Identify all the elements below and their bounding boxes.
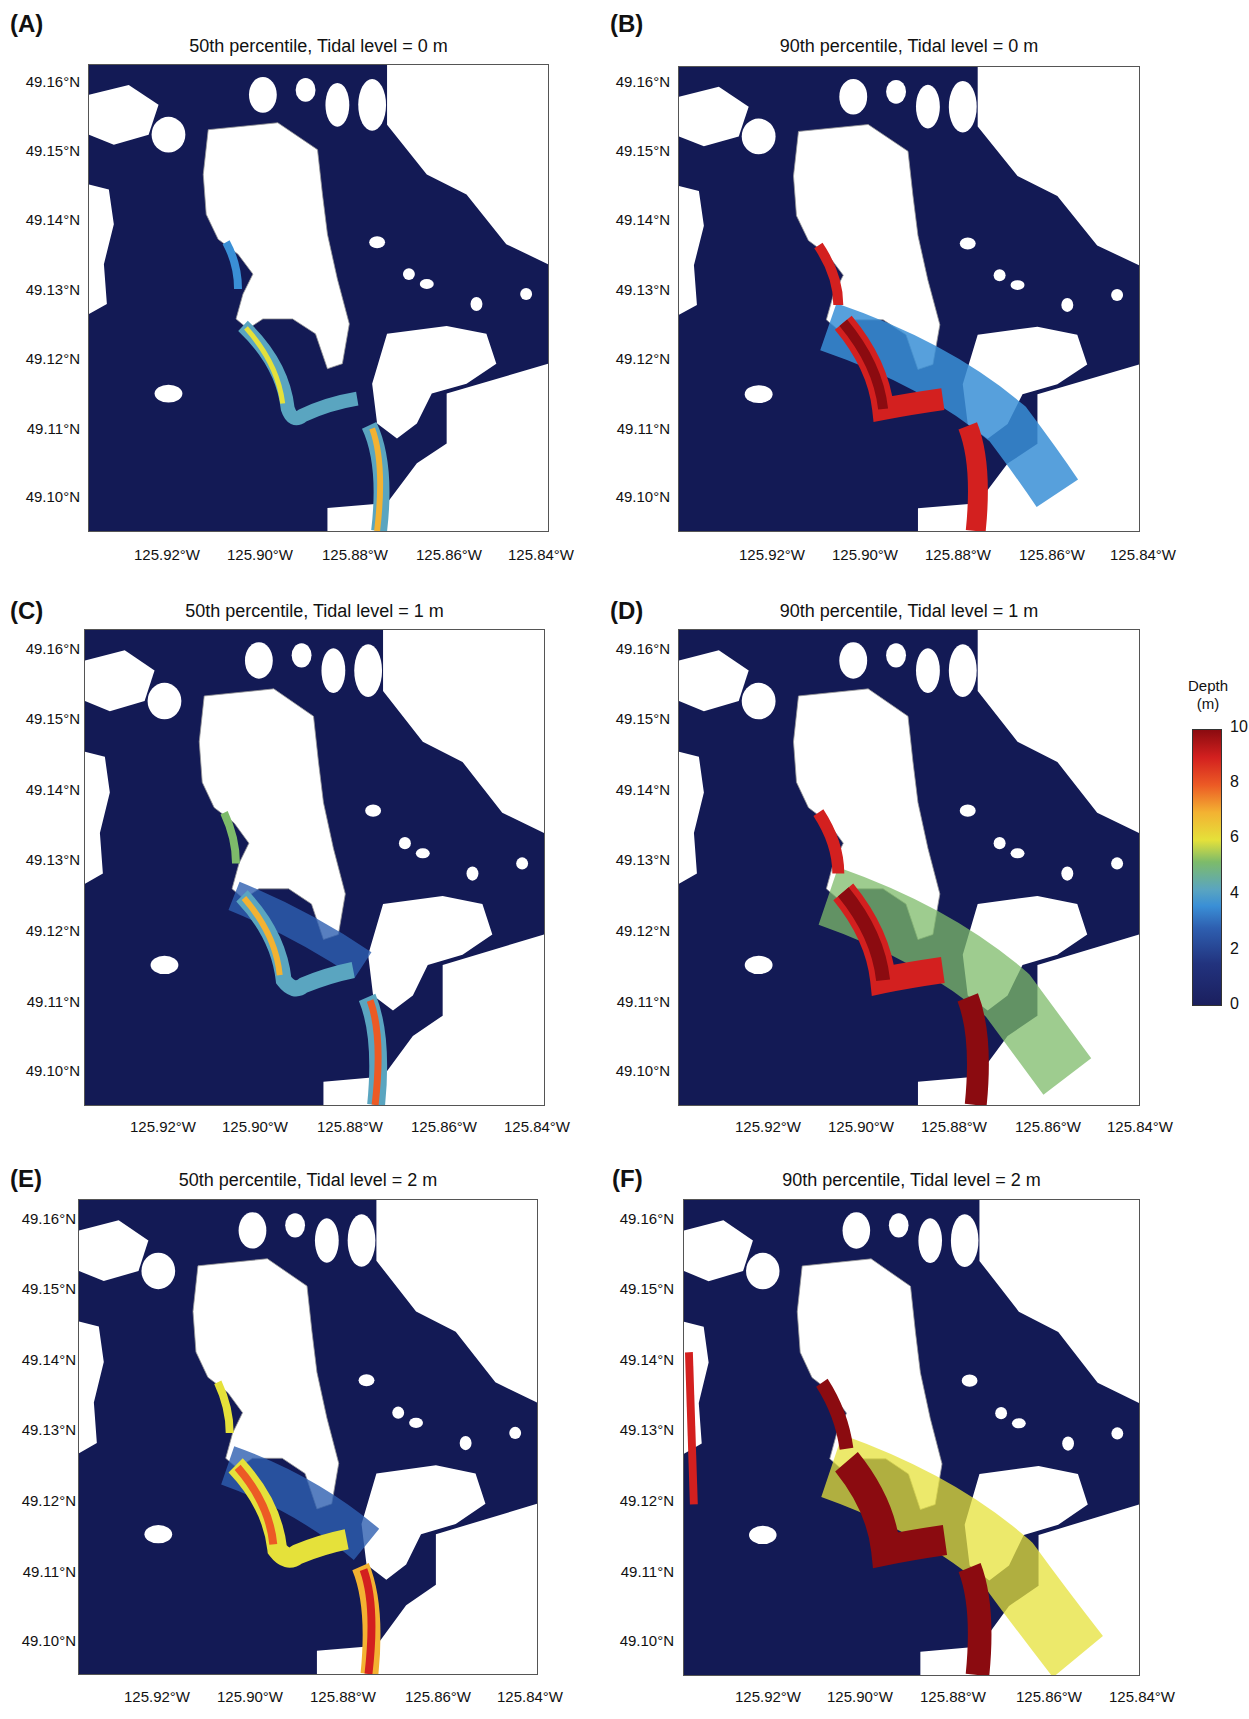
panel-a-ytick-6: 49.10°N (0, 488, 80, 505)
panel-b-xtick-2: 125.88°W (925, 546, 991, 563)
panel-a-ytick-2: 49.14°N (0, 211, 80, 228)
panel-e-map (78, 1199, 538, 1675)
panel-a-letter: (A) (10, 10, 43, 38)
colorbar-tick-4: 4 (1230, 884, 1239, 902)
panel-f-letter: (F) (612, 1165, 643, 1193)
panel-c-xtick-3: 125.86°W (411, 1118, 477, 1135)
panel-c-ytick-6: 49.10°N (0, 1062, 80, 1079)
colorbar-tick-10: 10 (1230, 718, 1248, 736)
panel-e-ytick-1: 49.15°N (0, 1280, 76, 1297)
panel-a-ytick-4: 49.12°N (0, 350, 80, 367)
panel-e-letter: (E) (10, 1165, 42, 1193)
panel-e-xtick-3: 125.86°W (405, 1688, 471, 1705)
panel-b-ytick-4: 49.12°N (590, 350, 670, 367)
panel-b-ytick-0: 49.16°N (590, 73, 670, 90)
panel-e-xtick-1: 125.90°W (217, 1688, 283, 1705)
panel-d-ytick-1: 49.15°N (590, 710, 670, 727)
panel-c-title: 50th percentile, Tidal level = 1 m (84, 601, 545, 622)
panel-e-ytick-2: 49.14°N (0, 1351, 76, 1368)
panel-a-xtick-4: 125.84°W (508, 546, 574, 563)
panel-d-map (678, 629, 1140, 1106)
panel-f-ytick-6: 49.10°N (594, 1632, 674, 1649)
panel-d-xtick-3: 125.86°W (1015, 1118, 1081, 1135)
panel-a-xtick-0: 125.92°W (134, 546, 200, 563)
colorbar-tick-6: 6 (1230, 828, 1239, 846)
panel-d-xtick-2: 125.88°W (921, 1118, 987, 1135)
panel-d-ytick-6: 49.10°N (590, 1062, 670, 1079)
panel-b-letter: (B) (610, 10, 643, 38)
panel-f-xtick-0: 125.92°W (735, 1688, 801, 1705)
colorbar-tick-2: 2 (1230, 940, 1239, 958)
panel-a-ytick-3: 49.13°N (0, 281, 80, 298)
panel-c-ytick-4: 49.12°N (0, 922, 80, 939)
panel-f-ytick-1: 49.15°N (594, 1280, 674, 1297)
panel-c-xtick-0: 125.92°W (130, 1118, 196, 1135)
panel-e-ytick-3: 49.13°N (0, 1421, 76, 1438)
panel-c-xtick-1: 125.90°W (222, 1118, 288, 1135)
panel-b-map (678, 66, 1140, 532)
panel-c-xtick-2: 125.88°W (317, 1118, 383, 1135)
panel-b-title: 90th percentile, Tidal level = 0 m (678, 36, 1140, 57)
panel-b-ytick-3: 49.13°N (590, 281, 670, 298)
panel-d-xtick-1: 125.90°W (828, 1118, 894, 1135)
panel-a-title: 50th percentile, Tidal level = 0 m (88, 36, 549, 57)
panel-b-ytick-6: 49.10°N (590, 488, 670, 505)
panel-d-ytick-5: 49.11°N (590, 993, 670, 1010)
panel-e-xtick-2: 125.88°W (310, 1688, 376, 1705)
panel-e-xtick-4: 125.84°W (497, 1688, 563, 1705)
panel-f-xtick-4: 125.84°W (1109, 1688, 1175, 1705)
panel-b-ytick-1: 49.15°N (590, 142, 670, 159)
panel-c-ytick-3: 49.13°N (0, 851, 80, 868)
panel-e-ytick-0: 49.16°N (0, 1210, 76, 1227)
panel-f-ytick-0: 49.16°N (594, 1210, 674, 1227)
panel-b-xtick-4: 125.84°W (1110, 546, 1176, 563)
colorbar-title: Depth (m) (1178, 677, 1238, 713)
panel-f-xtick-1: 125.90°W (827, 1688, 893, 1705)
panel-e-ytick-6: 49.10°N (0, 1632, 76, 1649)
panel-c-xtick-4: 125.84°W (504, 1118, 570, 1135)
panel-e-title: 50th percentile, Tidal level = 2 m (78, 1170, 538, 1191)
panel-b-ytick-5: 49.11°N (590, 420, 670, 437)
panel-f-ytick-2: 49.14°N (594, 1351, 674, 1368)
panel-f-xtick-3: 125.86°W (1016, 1688, 1082, 1705)
panel-c-ytick-0: 49.16°N (0, 640, 80, 657)
panel-b-xtick-0: 125.92°W (739, 546, 805, 563)
colorbar-title-line2: (m) (1178, 695, 1238, 713)
panel-a-ytick-0: 49.16°N (0, 73, 80, 90)
panel-a-map (88, 64, 549, 532)
panel-e-ytick-5: 49.11°N (0, 1563, 76, 1580)
panel-d-letter: (D) (610, 597, 643, 625)
colorbar-tick-0: 0 (1230, 995, 1239, 1013)
panel-a-ytick-5: 49.11°N (0, 420, 80, 437)
panel-c-ytick-5: 49.11°N (0, 993, 80, 1010)
panel-f-title: 90th percentile, Tidal level = 2 m (683, 1170, 1140, 1191)
panel-a-xtick-3: 125.86°W (416, 546, 482, 563)
panel-b-xtick-1: 125.90°W (832, 546, 898, 563)
panel-f-map (683, 1199, 1140, 1676)
panel-c-map (84, 629, 545, 1106)
panel-f-ytick-4: 49.12°N (594, 1492, 674, 1509)
colorbar-tick-8: 8 (1230, 773, 1239, 791)
panel-d-xtick-4: 125.84°W (1107, 1118, 1173, 1135)
panel-b-ytick-2: 49.14°N (590, 211, 670, 228)
panel-f-xtick-2: 125.88°W (920, 1688, 986, 1705)
panel-c-letter: (C) (10, 597, 43, 625)
panel-d-xtick-0: 125.92°W (735, 1118, 801, 1135)
panel-f-ytick-5: 49.11°N (594, 1563, 674, 1580)
panel-b-xtick-3: 125.86°W (1019, 546, 1085, 563)
colorbar-title-line1: Depth (1178, 677, 1238, 695)
panel-d-ytick-2: 49.14°N (590, 781, 670, 798)
panel-c-ytick-1: 49.15°N (0, 710, 80, 727)
panel-a-xtick-2: 125.88°W (322, 546, 388, 563)
panel-f-ytick-3: 49.13°N (594, 1421, 674, 1438)
panel-d-ytick-3: 49.13°N (590, 851, 670, 868)
panel-a-ytick-1: 49.15°N (0, 142, 80, 159)
depth-colorbar (1192, 729, 1222, 1006)
panel-c-ytick-2: 49.14°N (0, 781, 80, 798)
panel-d-ytick-0: 49.16°N (590, 640, 670, 657)
panel-e-xtick-0: 125.92°W (124, 1688, 190, 1705)
panel-d-title: 90th percentile, Tidal level = 1 m (678, 601, 1140, 622)
panel-e-ytick-4: 49.12°N (0, 1492, 76, 1509)
panel-d-ytick-4: 49.12°N (590, 922, 670, 939)
panel-a-xtick-1: 125.90°W (227, 546, 293, 563)
